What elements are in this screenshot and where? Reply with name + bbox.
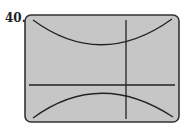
calculator-screen [0, 0, 181, 124]
screen-frame [25, 15, 179, 122]
